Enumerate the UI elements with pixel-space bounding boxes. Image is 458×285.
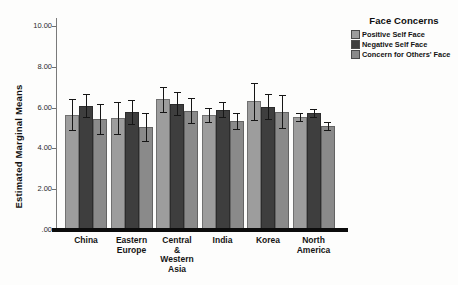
bar-india-s2: [230, 121, 244, 230]
error-bar-cap-top: [97, 104, 104, 105]
error-bar: [268, 94, 269, 118]
legend-label: Concern for Others' Face: [362, 50, 450, 59]
x-axis-label-korea: Korea: [242, 236, 294, 246]
legend-swatch-icon: [351, 30, 360, 39]
bar-china-s2: [93, 119, 107, 230]
error-bar-cap-top: [251, 83, 258, 84]
bar-central-western-asia-s0: [156, 99, 170, 230]
error-bar-cap-bottom: [205, 122, 212, 123]
bar-china-s1: [79, 106, 93, 230]
error-bar: [328, 122, 329, 129]
error-bar-cap-bottom: [310, 117, 317, 118]
error-bar-cap-bottom: [114, 134, 121, 135]
legend-swatch-icon: [351, 50, 360, 59]
y-tick-label: 4.00: [22, 144, 52, 152]
bar-eastern-europe-s1: [125, 112, 139, 230]
y-tick-mark: [52, 108, 56, 109]
error-bar-cap-top: [188, 98, 195, 99]
legend-item: Concern for Others' Face: [351, 50, 457, 59]
y-tick-mark: [52, 26, 56, 27]
error-bar-cap-bottom: [174, 115, 181, 116]
legend-label: Negative Self Face: [362, 40, 427, 49]
y-tick-label: 2.00: [22, 185, 52, 193]
x-axis-baseline: [52, 228, 348, 232]
error-bar-cap-top: [128, 100, 135, 101]
legend-item: Negative Self Face: [351, 40, 457, 49]
error-bar-cap-bottom: [97, 134, 104, 135]
error-bar-cap-bottom: [233, 129, 240, 130]
error-bar: [254, 83, 255, 120]
error-bar: [314, 109, 315, 117]
legend: Face Concerns Positive Self FaceNegative…: [351, 15, 457, 60]
error-bar: [72, 99, 73, 130]
error-bar: [118, 102, 119, 134]
legend-items: Positive Self FaceNegative Self FaceConc…: [351, 30, 457, 59]
error-bar-cap-top: [265, 94, 272, 95]
error-bar-cap-bottom: [160, 112, 167, 113]
error-bar-cap-top: [205, 108, 212, 109]
legend-title: Face Concerns: [351, 15, 457, 26]
error-bar: [300, 113, 301, 121]
error-bar-cap-bottom: [219, 117, 226, 118]
bar-korea-s1: [261, 107, 275, 230]
y-tick-mark: [52, 67, 56, 68]
error-bar: [223, 102, 224, 118]
x-axis-label-central-western-asia: Central&WesternAsia: [151, 236, 203, 274]
error-bar: [86, 94, 87, 116]
error-bar-cap-bottom: [324, 130, 331, 131]
error-bar: [209, 108, 210, 122]
error-bar-cap-bottom: [265, 119, 272, 120]
error-bar-cap-bottom: [279, 128, 286, 129]
x-axis-label-india: India: [197, 236, 249, 246]
error-bar-cap-top: [279, 95, 286, 96]
y-tick-label: 6.00: [22, 104, 52, 112]
bar-chart-figure: Estimated Marginal Means .002.004.006.00…: [0, 0, 458, 285]
bar-eastern-europe-s2: [139, 127, 153, 230]
y-tick-label: 8.00: [22, 63, 52, 71]
bar-korea-s2: [275, 112, 289, 230]
x-axis-label-eastern-europe: EasternEurope: [106, 236, 158, 255]
x-axis-label-china: China: [60, 236, 112, 246]
error-bar-cap-top: [69, 99, 76, 100]
legend-label: Positive Self Face: [362, 30, 425, 39]
error-bar: [163, 87, 164, 111]
error-bar-cap-top: [296, 113, 303, 114]
error-bar-cap-top: [174, 92, 181, 93]
error-bar-cap-top: [142, 113, 149, 114]
x-axis-label-north-america: NorthAmerica: [288, 236, 340, 255]
error-bar-cap-bottom: [128, 124, 135, 125]
y-axis-line: [56, 18, 57, 230]
error-bar-cap-top: [83, 94, 90, 95]
error-bar: [100, 104, 101, 133]
error-bar-cap-top: [219, 102, 226, 103]
error-bar-cap-bottom: [251, 120, 258, 121]
y-tick-mark: [52, 189, 56, 190]
error-bar-cap-top: [160, 87, 167, 88]
y-tick-label: 10.00: [22, 22, 52, 30]
y-tick-mark: [52, 148, 56, 149]
error-bar-cap-bottom: [296, 121, 303, 122]
error-bar: [132, 100, 133, 124]
bar-north-america-s0: [293, 117, 307, 230]
error-bar: [282, 95, 283, 128]
error-bar-cap-top: [324, 122, 331, 123]
y-tick-label: .00: [22, 226, 52, 234]
legend-item: Positive Self Face: [351, 30, 457, 39]
bar-north-america-s2: [321, 126, 335, 230]
bar-india-s0: [202, 115, 216, 230]
error-bar-cap-bottom: [83, 117, 90, 118]
error-bar-cap-bottom: [69, 130, 76, 131]
bar-north-america-s1: [307, 113, 321, 230]
bar-central-western-asia-s2: [184, 111, 198, 230]
bar-central-western-asia-s1: [170, 104, 184, 230]
error-bar-cap-top: [114, 102, 121, 103]
bar-india-s1: [216, 110, 230, 230]
error-bar: [177, 92, 178, 116]
error-bar-cap-bottom: [142, 141, 149, 142]
error-bar-cap-top: [233, 113, 240, 114]
error-bar: [237, 113, 238, 129]
error-bar: [191, 98, 192, 122]
error-bar-cap-top: [310, 109, 317, 110]
bar-china-s0: [65, 115, 79, 230]
error-bar: [146, 113, 147, 140]
